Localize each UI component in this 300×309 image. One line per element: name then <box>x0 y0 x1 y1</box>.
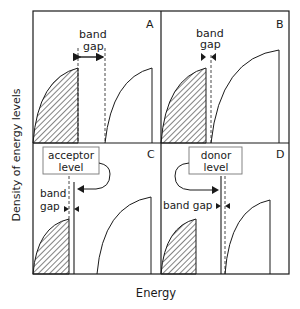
conduction-band-a <box>105 68 152 143</box>
panel-label-b: B <box>276 18 284 31</box>
panel-label-a: A <box>146 18 154 31</box>
band-gap-arrow-d-left <box>216 203 221 209</box>
band-gap-arrow-b-right <box>211 53 216 61</box>
band-diagram: A band gap B band gap C acceptor level b… <box>0 0 300 309</box>
panel-b: B band gap <box>161 18 284 143</box>
panel-d: D donor level band gap <box>161 147 284 274</box>
donor-box-line2: level <box>204 161 229 173</box>
panel-a: A band gap <box>33 18 154 143</box>
conduction-band-d <box>225 200 270 274</box>
band-gap-label-a-line2: gap <box>83 40 104 53</box>
band-gap-label-d: band gap <box>163 199 213 211</box>
valence-band-d <box>161 219 196 274</box>
panel-c: C acceptor level band gap <box>33 147 155 274</box>
band-gap-arrow-c-left <box>64 206 69 212</box>
band-gap-label-c-line1: band <box>40 187 66 199</box>
valence-band-b <box>161 68 206 143</box>
conduction-band-b <box>211 50 279 143</box>
panel-label-c: C <box>147 148 155 161</box>
band-gap-arrow-d-right <box>225 203 230 209</box>
band-gap-arrow-b-left <box>201 53 206 61</box>
acceptor-box-line2: level <box>59 161 84 173</box>
donor-pointer-arrowhead <box>212 186 219 194</box>
band-gap-label-b-line2: gap <box>200 38 221 51</box>
valence-band-a <box>33 68 78 143</box>
x-axis-label: Energy <box>136 286 176 300</box>
donor-box-line1: donor <box>201 149 232 161</box>
band-gap-arrow-c-right <box>74 206 79 212</box>
valence-band-c <box>33 219 69 274</box>
acceptor-pointer-arrowhead <box>77 185 84 193</box>
band-gap-label-c-line2: gap <box>40 200 60 212</box>
conduction-band-c <box>97 197 151 274</box>
acceptor-box-line1: acceptor <box>48 149 95 161</box>
panel-label-d: D <box>276 148 284 161</box>
y-axis-label: Density of energy levels <box>10 88 23 221</box>
